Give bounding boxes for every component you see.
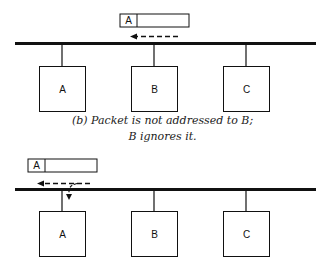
bus-cable — [15, 42, 316, 45]
packet-b: A — [120, 14, 189, 27]
panel-b-caption-line1: (b) Packet is not addressed to B; — [0, 113, 325, 128]
node-label: C — [243, 229, 250, 240]
panel-c: A A B C — [15, 159, 316, 257]
node-c: C — [224, 67, 270, 112]
node-a: A — [40, 212, 86, 257]
packet-received-arrow-icon — [66, 184, 77, 201]
node-label: A — [59, 229, 66, 240]
node-b: B — [132, 67, 178, 112]
packet-address-label: A — [125, 15, 132, 26]
node-b: B — [132, 212, 178, 257]
node-label: A — [59, 84, 66, 95]
packet-direction-arrow-icon — [130, 34, 178, 40]
bus-cable — [15, 188, 316, 191]
panel-b: A A B C — [15, 14, 316, 112]
packet-direction-arrow-icon — [37, 181, 90, 187]
node-a: A — [40, 67, 86, 112]
node-label: B — [151, 84, 158, 95]
node-label: C — [243, 84, 250, 95]
packet-address-label: A — [33, 160, 40, 171]
node-label: B — [151, 229, 158, 240]
packet-c: A — [28, 159, 97, 172]
node-c: C — [224, 212, 270, 257]
panel-b-caption-line2: B ignores it. — [0, 129, 325, 144]
